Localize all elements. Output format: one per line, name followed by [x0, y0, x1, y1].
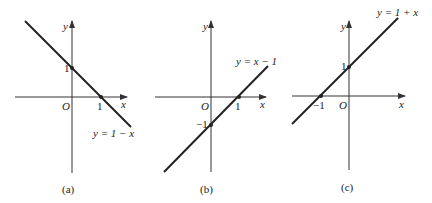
- equation-label: y = x − 1: [236, 56, 277, 67]
- x-axis-label: x: [121, 99, 126, 110]
- panel-caption: (c): [341, 182, 353, 193]
- y-tick-label: 1: [341, 61, 347, 72]
- equation-label: y = 1 + x: [377, 7, 418, 18]
- x-axis-label: x: [399, 99, 404, 110]
- point-1-0: [99, 95, 103, 99]
- point-0-neg1: [209, 123, 213, 127]
- point-0-1: [70, 66, 74, 70]
- equation-label: y = 1 − x: [93, 128, 134, 139]
- point-0-1: [347, 65, 351, 69]
- panel-a-graph: [15, 21, 131, 173]
- origin-label: O: [339, 100, 347, 111]
- y-tick-label: −1: [196, 119, 208, 130]
- panel-caption: (a): [62, 184, 74, 195]
- x-tick-label: 1: [235, 101, 241, 112]
- panel-b-graph: [155, 21, 268, 172]
- origin-label: O: [62, 101, 70, 112]
- x-tick-label: −1: [313, 100, 325, 111]
- y-axis-label: y: [203, 21, 208, 32]
- point-neg1-0: [319, 94, 323, 98]
- y-axis-label: y: [63, 21, 68, 32]
- y-tick-label: 1: [64, 63, 70, 74]
- y-axis-label: y: [341, 21, 346, 32]
- x-tick-label: 1: [97, 101, 103, 112]
- line-y-equals-1-minus-x: [25, 21, 131, 127]
- point-1-0: [237, 95, 241, 99]
- x-axis-label: x: [260, 99, 265, 110]
- line-y-equals-x-minus-1: [164, 66, 268, 172]
- panel-caption: (b): [200, 184, 213, 195]
- panel-c-graph: [292, 18, 405, 170]
- origin-label: O: [201, 101, 209, 112]
